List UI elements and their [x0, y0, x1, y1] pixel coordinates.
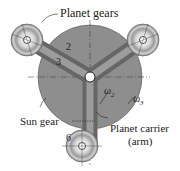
label-num-6: 6 — [66, 133, 71, 143]
gear-drawing — [0, 0, 180, 171]
label-arm: (arm) — [128, 136, 152, 147]
planetary-gear-diagram: Planet gears 2 3 ω2 ω3 Sun gear Planet c… — [0, 0, 180, 171]
planet-gear-right — [127, 24, 159, 56]
center-pin — [85, 72, 95, 82]
label-omega3: ω3 — [133, 94, 144, 107]
label-omega2: ω2 — [104, 86, 115, 99]
label-planet-carrier: Planet carrier — [110, 123, 169, 134]
label-planet-gears: Planet gears — [60, 7, 118, 19]
planet-gear-left — [11, 24, 43, 56]
label-sun-gear: Sun gear — [20, 116, 59, 127]
label-num-3: 3 — [56, 57, 61, 67]
label-num-2: 2 — [66, 42, 71, 52]
